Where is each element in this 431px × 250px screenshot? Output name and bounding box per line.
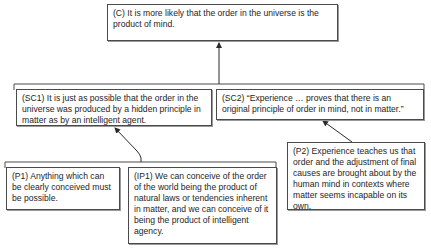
premise-box-ip1: (IP1) We can conceive of the order of th… <box>128 167 277 244</box>
arrow-p2-to-sc2 <box>323 121 352 142</box>
p1-text: (P1) Anything which can be clearly conce… <box>12 171 111 203</box>
sc2-text: (SC2) “Experience … proves that there is… <box>222 93 404 114</box>
sub-conclusion-box-sc2: (SC2) “Experience … proves that there is… <box>216 89 424 120</box>
sc1-text: (SC1) It is just as possible that the or… <box>22 93 201 125</box>
sub-conclusion-box-sc1: (SC1) It is just as possible that the or… <box>16 89 212 126</box>
ip1-text: (IP1) We can conceive of the order of th… <box>134 171 268 236</box>
premise-box-p1: (P1) Anything which can be clearly conce… <box>6 167 120 210</box>
arrow-p1-ip1-to-sc1 <box>115 128 141 162</box>
p2-text: (P2) Experience teaches us that order an… <box>293 146 416 211</box>
premise-box-p2: (P2) Experience teaches us that order an… <box>287 142 425 210</box>
conclusion-text: (C) It is more likely that the order in … <box>113 8 319 29</box>
conclusion-box-c: (C) It is more likely that the order in … <box>107 4 338 41</box>
